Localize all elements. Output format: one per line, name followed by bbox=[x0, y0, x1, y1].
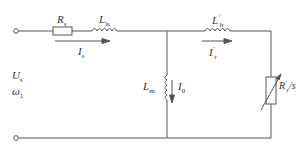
inductor-llr bbox=[205, 29, 230, 32]
resistor-rr-s bbox=[266, 77, 276, 104]
circuit-diagram bbox=[0, 0, 304, 152]
label-omega1: ω1 bbox=[12, 86, 23, 100]
label-rr-s: R′r/s bbox=[279, 80, 296, 94]
label-us: Us bbox=[12, 70, 23, 84]
label-lls: Lls bbox=[99, 14, 110, 28]
resistor-rs bbox=[53, 27, 72, 35]
terminal-bottom bbox=[14, 136, 19, 141]
label-rs: Rs bbox=[57, 14, 66, 28]
label-ir: I′r bbox=[209, 46, 217, 61]
arrow-ir-head bbox=[224, 39, 232, 44]
label-llr: L′lr bbox=[212, 14, 224, 29]
inductor-lm bbox=[165, 75, 167, 100]
label-i0: I0 bbox=[178, 81, 185, 95]
arrow-i0-head bbox=[170, 95, 175, 103]
label-lm: Lm bbox=[143, 81, 155, 95]
terminal-top bbox=[14, 29, 19, 34]
inductor-lls bbox=[92, 29, 117, 32]
label-is: Is bbox=[78, 46, 84, 60]
arrow-is-head bbox=[102, 39, 110, 44]
